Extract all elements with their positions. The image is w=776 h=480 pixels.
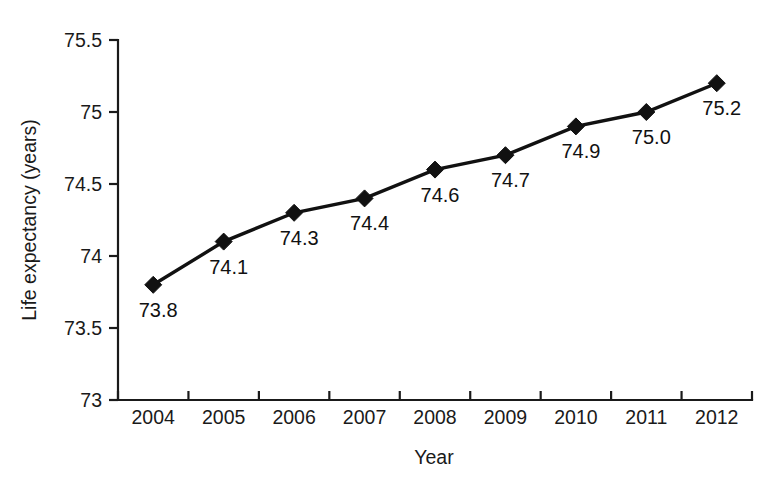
y-tick-label: 75 [80,101,102,123]
data-point-label: 75.2 [702,97,741,119]
data-point-marker [497,147,514,164]
x-tick-label: 2007 [343,406,386,428]
x-tick-label: 2010 [554,406,598,428]
data-point-marker [145,276,162,293]
series-point-labels: 73.874.174.374.474.674.774.975.075.2 [139,97,741,321]
data-point-label: 74.6 [421,184,460,206]
x-tick-label: 2004 [132,406,176,428]
line-chart-plot: 7373.57474.57575.5 200420052006200720082… [0,0,776,480]
data-point-marker [215,233,232,250]
y-tick-label: 73 [80,389,102,411]
data-point-marker [356,190,373,207]
data-point-label: 74.9 [561,140,600,162]
x-tick-label: 2009 [484,406,527,428]
y-axis-title: Life expectancy (years) [18,119,40,321]
data-point-label: 73.8 [139,299,178,321]
x-tick-label: 2011 [625,406,667,428]
y-tick-label: 75.5 [64,29,102,51]
data-point-label: 74.7 [491,169,530,191]
y-axis-tick-labels: 7373.57474.57575.5 [64,29,102,411]
data-point-marker [427,161,444,178]
data-point-marker [708,75,725,92]
x-tick-label: 2012 [695,406,738,428]
data-point-marker [286,204,303,221]
x-tick-label: 2006 [272,406,315,428]
x-axis-tick-marks [118,391,752,400]
data-point-marker [567,118,584,135]
data-point-marker [638,104,655,121]
y-tick-label: 73.5 [64,317,102,339]
y-axis-tick-marks [109,40,118,400]
x-tick-label: 2005 [202,406,246,428]
y-tick-label: 74.5 [64,173,102,195]
y-tick-label: 74 [80,245,102,267]
x-axis-tick-labels: 200420052006200720082009201020112012 [132,406,739,428]
data-point-label: 75.0 [632,126,671,148]
data-point-label: 74.3 [280,227,319,249]
chart-container: 7373.57474.57575.5 200420052006200720082… [0,0,776,480]
x-axis-title: Year [414,446,454,468]
data-point-label: 74.4 [350,212,389,234]
x-tick-label: 2008 [413,406,456,428]
data-point-label: 74.1 [209,256,248,278]
